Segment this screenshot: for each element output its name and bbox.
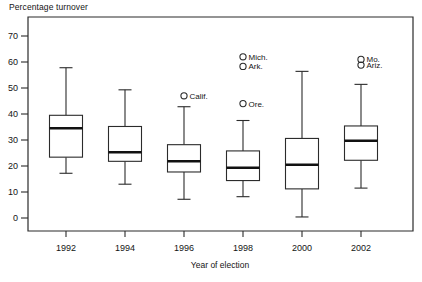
box-plot-2000 (286, 71, 319, 217)
box-plot-1992 (50, 68, 83, 174)
box-iqr (345, 126, 378, 160)
outlier-circle-icon (240, 63, 246, 69)
x-axis-labels: 199219941996199820002002 (56, 243, 371, 253)
plot-frame (28, 17, 413, 231)
box-plot-1996 (168, 107, 201, 200)
box-iqr (227, 151, 260, 181)
outlier-label: Mich. (249, 53, 268, 62)
x-tick-label: 1994 (115, 243, 135, 253)
outlier-circle-icon (181, 93, 187, 99)
y-tick-label: 30 (8, 135, 18, 145)
x-tick-label: 1996 (174, 243, 194, 253)
y-axis-ticks: 010203040506070 (8, 31, 28, 223)
outlier-label: Ark. (249, 62, 263, 71)
x-axis-ticks (66, 231, 361, 237)
box-iqr (109, 126, 142, 161)
outlier-ore: Ore. (240, 100, 264, 109)
y-tick-label: 10 (8, 187, 18, 197)
y-tick-label: 70 (8, 31, 18, 41)
box-plot-2002 (345, 84, 378, 188)
x-tick-label: 2000 (292, 243, 312, 253)
box-plot-1994 (109, 90, 142, 184)
outlier-label: Ariz. (367, 61, 383, 70)
y-tick-label: 50 (8, 83, 18, 93)
outlier-label: Ore. (249, 100, 265, 109)
outlier-circle-icon (240, 54, 246, 60)
boxplot-figure: Percentage turnover 010203040506070 Cali… (0, 0, 422, 282)
outlier-calif: Calif. (181, 92, 208, 101)
outlier-circle-icon (240, 101, 246, 107)
outlier-markers: Calif.Mich.Ark.Ore.Mo.Ariz. (181, 53, 383, 109)
y-tick-label: 60 (8, 57, 18, 67)
box-plots (50, 68, 378, 217)
outlier-ariz: Ariz. (358, 61, 383, 70)
box-iqr (168, 145, 201, 172)
y-tick-label: 20 (8, 161, 18, 171)
x-axis-title: Year of election (191, 260, 250, 270)
outlier-ark: Ark. (240, 62, 263, 71)
y-tick-label: 0 (13, 213, 18, 223)
box-plot-1998 (227, 121, 260, 197)
y-tick-label: 40 (8, 109, 18, 119)
box-iqr (50, 115, 83, 157)
plot-area: 010203040506070 Calif.Mich.Ark.Ore.Mo.Ar… (0, 0, 422, 282)
outlier-mich: Mich. (240, 53, 268, 62)
x-tick-label: 2002 (351, 243, 371, 253)
outlier-label: Calif. (190, 92, 208, 101)
x-tick-label: 1992 (56, 243, 76, 253)
x-tick-label: 1998 (233, 243, 253, 253)
